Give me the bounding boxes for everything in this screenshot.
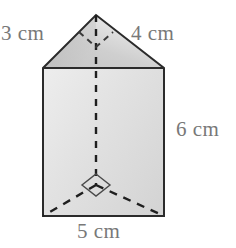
prism-front-face <box>43 68 164 216</box>
triangular-prism-figure: 3 cm 4 cm 6 cm 5 cm <box>0 0 236 248</box>
dimension-label-right-slant: 4 cm <box>131 23 174 44</box>
dimension-label-left-slant: 3 cm <box>1 23 44 44</box>
dimension-label-height: 6 cm <box>176 119 219 140</box>
dimension-label-base-width: 5 cm <box>77 221 120 242</box>
